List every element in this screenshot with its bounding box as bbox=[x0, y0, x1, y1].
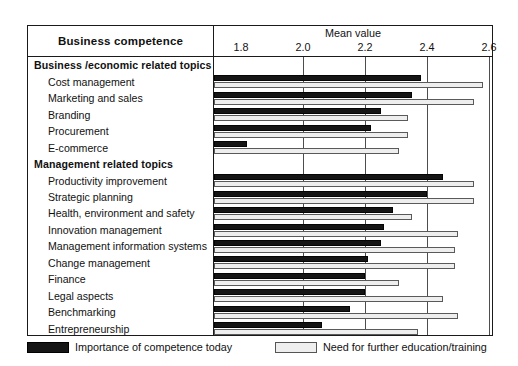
bar-importance bbox=[214, 289, 365, 295]
bar-need bbox=[214, 329, 418, 335]
table-row: Change management bbox=[28, 255, 213, 271]
bar-importance bbox=[214, 273, 365, 279]
bar-importance bbox=[214, 92, 412, 98]
x-tick-label-2-2: 2.2 bbox=[357, 41, 372, 53]
bar-importance bbox=[214, 125, 371, 131]
row-label: Procurement bbox=[28, 123, 209, 139]
bar-need bbox=[214, 132, 408, 138]
chart-figure: Business competence Mean value 1.82.02.2… bbox=[0, 0, 518, 366]
row-label: Legal aspects bbox=[28, 288, 209, 304]
legend-swatch-light-icon bbox=[275, 342, 317, 353]
legend-swatch-dark-icon bbox=[27, 342, 69, 353]
bar-need bbox=[214, 82, 483, 88]
header-title-business-competence: Business competence bbox=[58, 35, 183, 47]
table-row: Marketing and sales bbox=[28, 90, 213, 106]
legend-item-importance: Importance of competence today bbox=[27, 341, 232, 353]
bar-need bbox=[214, 263, 455, 269]
table-row: Productivity improvement bbox=[28, 172, 213, 188]
table-row: Innovation management bbox=[28, 222, 213, 238]
table-row: Strategic planning bbox=[28, 189, 213, 205]
legend-label-importance: Importance of competence today bbox=[75, 341, 232, 353]
row-label: Health, environment and safety bbox=[28, 205, 209, 221]
table-row: Entrepreneurship bbox=[28, 321, 213, 337]
table-row: Branding bbox=[28, 106, 213, 122]
bar-need bbox=[214, 313, 458, 319]
table-row: Procurement bbox=[28, 123, 213, 139]
bar-need bbox=[214, 214, 412, 220]
bar-importance bbox=[214, 224, 384, 230]
row-label: Marketing and sales bbox=[28, 90, 209, 106]
gridline-2-6 bbox=[489, 57, 490, 335]
legend-item-need: Need for further education/training bbox=[275, 341, 487, 353]
row-label: Benchmarking bbox=[28, 304, 209, 320]
bar-importance bbox=[214, 322, 322, 328]
chart-legend: Importance of competence today Need for … bbox=[27, 341, 493, 359]
section-label: Business /economic related topics bbox=[28, 57, 209, 73]
table-row: Benchmarking bbox=[28, 304, 213, 320]
bar-importance bbox=[214, 306, 350, 312]
bar-importance bbox=[214, 240, 381, 246]
row-label: Change management bbox=[28, 255, 209, 271]
header-cell-business-competence: Business competence bbox=[28, 26, 214, 56]
bar-importance bbox=[214, 75, 421, 81]
bar-need bbox=[214, 181, 474, 187]
x-tick-label-2: 2.0 bbox=[295, 41, 310, 53]
bar-need bbox=[214, 231, 458, 237]
row-label: Cost management bbox=[28, 73, 209, 89]
row-label: Innovation management bbox=[28, 222, 209, 238]
table-row: Management information systems bbox=[28, 238, 213, 254]
bar-need bbox=[214, 148, 399, 154]
x-tick-label-2-6: 2.6 bbox=[481, 41, 496, 53]
legend-label-need: Need for further education/training bbox=[323, 341, 487, 353]
header-cell-mean-value: Mean value 1.82.02.22.42.6 bbox=[214, 26, 492, 56]
plot-area bbox=[214, 57, 492, 335]
chart-table-frame: Business competence Mean value 1.82.02.2… bbox=[27, 25, 493, 336]
section-label: Management related topics bbox=[28, 156, 209, 172]
row-label: Finance bbox=[28, 271, 209, 287]
bar-need bbox=[214, 99, 474, 105]
table-row: Cost management bbox=[28, 73, 213, 89]
table-body: Business /economic related topicsCost ma… bbox=[28, 57, 492, 335]
row-label: Entrepreneurship bbox=[28, 321, 209, 337]
bar-importance bbox=[214, 191, 427, 197]
section-header-row: Management related topics bbox=[28, 156, 213, 172]
bar-need bbox=[214, 115, 408, 121]
bar-need bbox=[214, 280, 399, 286]
table-header: Business competence Mean value 1.82.02.2… bbox=[28, 26, 492, 57]
bar-importance bbox=[214, 207, 393, 213]
table-row: Finance bbox=[28, 271, 213, 287]
row-label: Productivity improvement bbox=[28, 172, 209, 188]
axis-title-mean-value: Mean value bbox=[214, 27, 492, 39]
section-header-row: Business /economic related topics bbox=[28, 57, 213, 73]
bar-importance bbox=[214, 174, 443, 180]
x-tick-label-2-4: 2.4 bbox=[419, 41, 434, 53]
bar-need bbox=[214, 296, 443, 302]
x-tick-label-1-8: 1.8 bbox=[233, 41, 248, 53]
table-row: Legal aspects bbox=[28, 288, 213, 304]
table-row: Health, environment and safety bbox=[28, 205, 213, 221]
row-label: Management information systems bbox=[28, 238, 209, 254]
bar-need bbox=[214, 198, 474, 204]
row-label: E-commerce bbox=[28, 139, 209, 155]
bar-importance bbox=[214, 108, 381, 114]
table-row: E-commerce bbox=[28, 139, 213, 155]
row-label: Strategic planning bbox=[28, 189, 209, 205]
bar-importance bbox=[214, 141, 247, 147]
row-label: Branding bbox=[28, 106, 209, 122]
bar-need bbox=[214, 247, 455, 253]
row-label-column: Business /economic related topicsCost ma… bbox=[28, 57, 214, 335]
bar-importance bbox=[214, 256, 368, 262]
